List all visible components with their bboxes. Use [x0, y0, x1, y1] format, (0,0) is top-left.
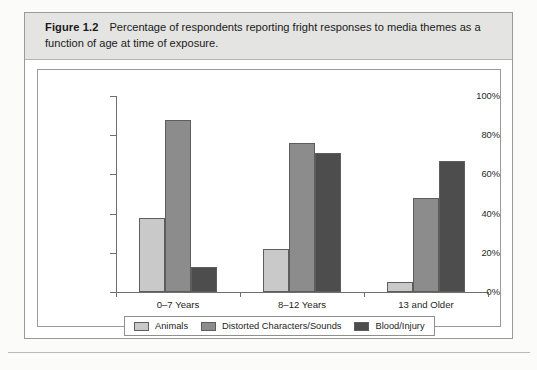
x-axis-tick [240, 292, 241, 297]
y-axis-tick-label: 0% [434, 287, 500, 297]
x-axis-category-label: 13 and Older [398, 299, 453, 310]
bar-group [364, 96, 488, 292]
page-horizontal-rule [8, 352, 530, 353]
y-axis-tick-label: 20% [434, 248, 500, 258]
bar-group [240, 96, 364, 292]
legend-item: Blood/Injury [354, 321, 424, 331]
chart-legend: AnimalsDistorted Characters/SoundsBlood/… [124, 316, 435, 336]
figure-caption-text: Percentage of respondents reporting frig… [45, 21, 481, 49]
legend-item: Distorted Characters/Sounds [201, 321, 341, 331]
bar-animals [263, 249, 289, 292]
bar-blood-injury [191, 267, 217, 292]
y-axis-tick-label: 100% [434, 91, 500, 101]
bar-blood-injury [439, 161, 465, 292]
legend-label: Blood/Injury [375, 321, 424, 331]
x-axis-tick [364, 292, 365, 297]
y-axis-tick [110, 96, 116, 97]
figure-container: Figure 1.2Percentage of respondents repo… [24, 12, 513, 339]
y-axis-tick [110, 214, 116, 215]
bar-blood-injury [315, 153, 341, 292]
figure-caption-band: Figure 1.2Percentage of respondents repo… [25, 13, 512, 60]
bar-animals [387, 282, 413, 292]
chart-plot-frame: 0%20%40%60%80%100%0–7 Years8–12 Years13 … [37, 69, 501, 327]
x-axis-line [116, 292, 488, 293]
figure-caption: Figure 1.2Percentage of respondents repo… [45, 20, 490, 51]
x-axis-category-label: 8–12 Years [278, 299, 326, 310]
legend-item: Animals [134, 321, 188, 331]
bar-distorted-characters-sounds [165, 120, 191, 292]
legend-label: Animals [155, 321, 188, 331]
chart-canvas: 0%20%40%60%80%100%0–7 Years8–12 Years13 … [38, 70, 500, 326]
bar-group [116, 96, 240, 292]
x-axis-category-label: 0–7 Years [157, 299, 200, 310]
legend-swatch-icon [201, 322, 216, 331]
y-axis-tick [110, 135, 116, 136]
figure-label: Figure 1.2 [45, 21, 98, 33]
x-axis-tick [116, 292, 117, 297]
y-axis-tick-label: 80% [434, 130, 500, 140]
legend-swatch-icon [354, 322, 369, 331]
y-axis-tick [110, 253, 116, 254]
bar-series-layer [116, 96, 488, 292]
y-axis-tick-label: 60% [434, 169, 500, 179]
bar-distorted-characters-sounds [289, 143, 315, 292]
bar-animals [139, 218, 165, 292]
y-axis-tick [110, 174, 116, 175]
y-axis-tick-label: 40% [434, 209, 500, 219]
x-axis-tick [488, 292, 489, 297]
legend-swatch-icon [134, 322, 149, 331]
legend-label: Distorted Characters/Sounds [222, 321, 341, 331]
